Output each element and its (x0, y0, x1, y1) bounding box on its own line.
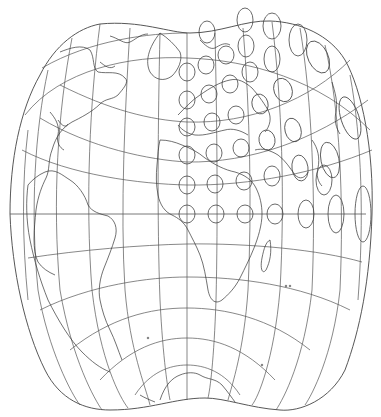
coast-greenland (148, 33, 181, 79)
map-canvas (0, 0, 381, 417)
coast-south-america (28, 171, 122, 360)
meridians (24, 22, 362, 410)
tissot-indicatrices (179, 8, 371, 242)
coast-europe (178, 79, 270, 132)
map-view[interactable] (0, 0, 381, 417)
